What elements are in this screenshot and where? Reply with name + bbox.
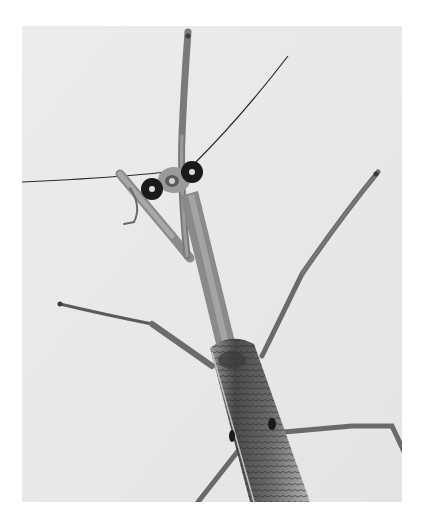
tag-marker-left	[141, 178, 163, 200]
tag-marker-right	[181, 161, 203, 183]
mantis-photograph: Black-and-white photograph of a praying …	[22, 26, 402, 502]
mantis-illustration	[22, 26, 402, 502]
